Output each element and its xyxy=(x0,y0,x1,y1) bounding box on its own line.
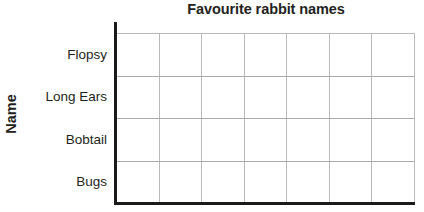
x-axis-line xyxy=(114,202,415,205)
y-axis-title: Name xyxy=(3,82,19,146)
grid-column xyxy=(245,34,288,203)
y-tick-label-bugs: Bugs xyxy=(20,161,112,204)
grid-columns xyxy=(117,34,414,203)
grid-column xyxy=(287,34,330,203)
chart-title: Favourite rabbit names xyxy=(117,1,415,17)
y-tick-label-flopsy: Flopsy xyxy=(20,33,112,76)
y-axis-tick-labels: Flopsy Long Ears Bobtail Bugs xyxy=(20,33,112,203)
grid-column xyxy=(202,34,245,203)
y-tick-label-bobtail: Bobtail xyxy=(20,118,112,161)
grid-column xyxy=(372,34,414,203)
y-tick-label-long-ears: Long Ears xyxy=(20,76,112,119)
bar-chart-worksheet: Favourite rabbit names Name Flopsy Long … xyxy=(0,0,424,212)
grid-column xyxy=(117,34,160,203)
plot-area xyxy=(117,33,415,203)
grid-column xyxy=(330,34,373,203)
y-axis-line xyxy=(114,22,117,205)
grid-column xyxy=(160,34,203,203)
